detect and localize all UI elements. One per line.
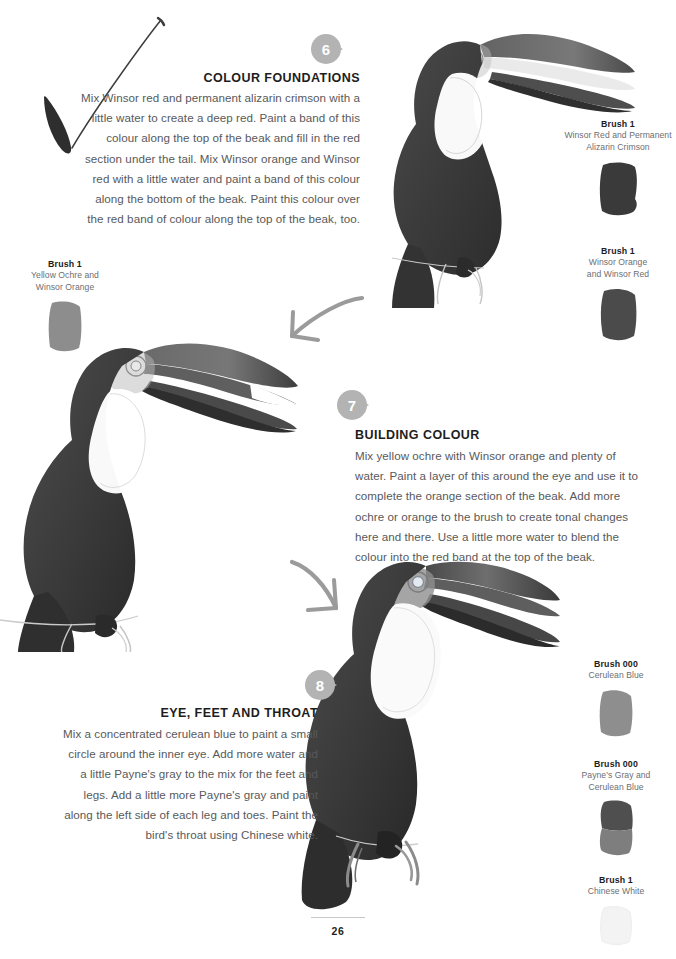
illustration-toucan-step-8 (300, 560, 560, 912)
footer-rule (311, 917, 365, 918)
swatch-yellow-ochre-winsor-orange: Brush 1 Yellow Ochre and Winsor Orange (5, 258, 125, 359)
swatch-chip (556, 799, 676, 861)
step-number-7: 7 (337, 390, 367, 420)
swatch-chip (558, 159, 676, 223)
page-footer: 26 (0, 917, 676, 937)
swatch-winsor-red-alizarin-crimson: Brush 1 Winsor Red and Permanent Alizari… (558, 118, 676, 223)
swatch-title: Brush 1 (558, 118, 676, 130)
swatch-subtitle-line-1: Winsor Red and Permanent (558, 130, 676, 142)
step-badge-6: 6 (311, 34, 345, 68)
page-number: 26 (0, 925, 676, 937)
swatch-chip (558, 286, 676, 348)
swatch-title: Brush 000 (556, 758, 676, 770)
swatch-paynes-gray-cerulean-blue: Brush 000 Payne's Gray and Cerulean Blue (556, 758, 676, 861)
swatch-title: Brush 1 (558, 245, 676, 257)
step-heading-6: COLOUR FOUNDATIONS (60, 71, 360, 85)
swatch-chip (5, 299, 125, 359)
swatch-subtitle-line-1: Winsor Orange (558, 257, 676, 269)
swatch-subtitle-line-2: Winsor Orange (5, 282, 125, 294)
step-number-6: 6 (311, 34, 341, 64)
step-number-8: 8 (305, 670, 335, 700)
arrow-step-6-to-7 (258, 292, 368, 358)
swatch-subtitle-line-1: Yellow Ochre and (5, 270, 125, 282)
swatch-cerulean-blue: Brush 000 Cerulean Blue (556, 658, 676, 744)
swatch-subtitle-line-2: Alizarin Crimson (558, 142, 676, 154)
swatch-title: Brush 000 (556, 658, 676, 670)
swatch-subtitle-line-1: Cerulean Blue (556, 670, 676, 682)
book-page: 6 COLOUR FOUNDATIONS Mix Winsor red and … (0, 0, 676, 959)
step-heading-8: EYE, FEET AND THROAT (30, 706, 318, 720)
swatch-subtitle-line-1: Chinese White (556, 886, 676, 898)
swatch-title: Brush 1 (5, 258, 125, 270)
swatch-chinese-white: Brush 1 Chinese White (556, 874, 676, 952)
step-badge-8: 8 (305, 670, 339, 704)
swatch-chip (556, 688, 676, 744)
swatch-subtitle-line-1: Payne's Gray and (556, 770, 676, 782)
step-body-8: Mix a concentrated cerulean blue to pain… (62, 724, 318, 845)
swatch-title: Brush 1 (556, 874, 676, 886)
swatch-subtitle-line-2: Cerulean Blue (556, 782, 676, 794)
swatch-winsor-orange-winsor-red: Brush 1 Winsor Orange and Winsor Red (558, 245, 676, 348)
step-body-7: Mix yellow ochre with Winsor orange and … (355, 446, 650, 567)
step-badge-7: 7 (337, 390, 371, 424)
step-body-6: Mix Winsor red and permanent alizarin cr… (78, 88, 360, 229)
illustration-toucan-step-7 (0, 334, 310, 652)
swatch-subtitle-line-2: and Winsor Red (558, 269, 676, 281)
step-heading-7: BUILDING COLOUR (355, 428, 655, 442)
